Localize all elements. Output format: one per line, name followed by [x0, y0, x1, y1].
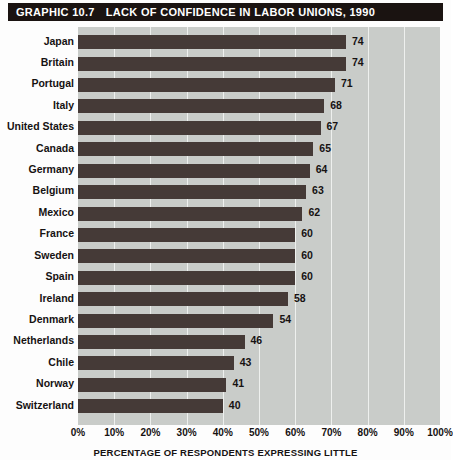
category-label: Netherlands: [0, 334, 74, 346]
bar-value-label: 74: [352, 35, 364, 47]
x-tick-label: 20%: [140, 427, 160, 438]
x-tick-label: 10%: [104, 427, 124, 438]
bar: [78, 185, 306, 199]
bar: [78, 335, 245, 349]
category-label: Canada: [0, 142, 74, 154]
category-label: United States: [0, 120, 74, 132]
bar-row: [78, 353, 440, 374]
bar-value-label: 74: [352, 56, 364, 68]
category-label: Japan: [0, 35, 74, 47]
x-tick-label: 40%: [213, 427, 233, 438]
bar: [78, 142, 313, 156]
bar: [78, 207, 302, 221]
bar-value-label: 40: [229, 399, 241, 411]
category-label: Switzerland: [0, 399, 74, 411]
bar: [78, 399, 223, 413]
bar-value-label: 63: [312, 184, 324, 196]
category-label: Sweden: [0, 249, 74, 261]
category-label: Spain: [0, 270, 74, 282]
graphic-number: GRAPHIC 10.7: [16, 6, 95, 18]
category-label: Portugal: [0, 77, 74, 89]
x-tick-label: 30%: [177, 427, 197, 438]
x-tick-label: 100%: [427, 427, 453, 438]
bar-row: [78, 96, 440, 117]
x-axis-label: PERCENTAGE OF RESPONDENTS EXPRESSING LIT…: [0, 447, 451, 458]
bar-value-label: 64: [316, 163, 328, 175]
category-label: Denmark: [0, 313, 74, 325]
bar: [78, 228, 295, 242]
x-tick-label: 90%: [394, 427, 414, 438]
bar-value-label: 58: [294, 292, 306, 304]
bar: [78, 99, 324, 113]
bar-value-label: 60: [301, 270, 313, 282]
bar-value-label: 68: [330, 99, 342, 111]
category-label: Belgium: [0, 184, 74, 196]
bar-value-label: 54: [279, 313, 291, 325]
x-axis-ticks: 0%10%20%30%40%50%60%70%80%90%100%: [0, 427, 451, 441]
bar-row: [78, 53, 440, 74]
category-label: Italy: [0, 99, 74, 111]
bar-row: [78, 375, 440, 396]
category-label: Chile: [0, 356, 74, 368]
bar-value-label: 46: [251, 334, 263, 346]
x-tick-label: 0%: [71, 427, 85, 438]
bar-value-label: 67: [327, 120, 339, 132]
bar: [78, 57, 346, 71]
bar: [78, 121, 321, 135]
bar-row: [78, 225, 440, 246]
bar-row: [78, 75, 440, 96]
bar-value-label: 62: [308, 206, 320, 218]
bar-row: [78, 161, 440, 182]
bar-row: [78, 118, 440, 139]
bar: [78, 35, 346, 49]
bar-row: [78, 139, 440, 160]
bar-row: [78, 203, 440, 224]
category-label: Ireland: [0, 292, 74, 304]
page-title: LACK OF CONFIDENCE IN LABOR UNIONS, 1990: [106, 6, 375, 18]
bar-row: [78, 289, 440, 310]
bar-value-label: 60: [301, 227, 313, 239]
bar-row: [78, 268, 440, 289]
bar-row: [78, 246, 440, 267]
bar: [78, 356, 234, 370]
category-label: Britain: [0, 56, 74, 68]
bar: [78, 314, 273, 328]
bar-value-label: 41: [232, 377, 244, 389]
bar-value-label: 43: [240, 356, 252, 368]
x-tick-label: 50%: [249, 427, 269, 438]
bar: [78, 249, 295, 263]
bar-row: [78, 182, 440, 203]
bar-value-label: 65: [319, 142, 331, 154]
bar-row: [78, 32, 440, 53]
category-label: Germany: [0, 163, 74, 175]
x-tick-label: 60%: [285, 427, 305, 438]
bar-chart: JapanBritainPortugalItalyUnited StatesCa…: [0, 25, 451, 425]
x-tick-label: 80%: [358, 427, 378, 438]
bar: [78, 378, 226, 392]
bar-value-label: 60: [301, 249, 313, 261]
category-label: Mexico: [0, 206, 74, 218]
bar-row: [78, 310, 440, 331]
bar: [78, 292, 288, 306]
plot-area: [78, 27, 440, 425]
category-label: Norway: [0, 377, 74, 389]
graphic-title-bar: GRAPHIC 10.7 LACK OF CONFIDENCE IN LABOR…: [8, 3, 443, 21]
category-label: France: [0, 227, 74, 239]
bar: [78, 271, 295, 285]
bar-value-label: 71: [341, 77, 353, 89]
x-tick-label: 70%: [321, 427, 341, 438]
bar: [78, 78, 335, 92]
bar-row: [78, 396, 440, 417]
bar: [78, 164, 310, 178]
